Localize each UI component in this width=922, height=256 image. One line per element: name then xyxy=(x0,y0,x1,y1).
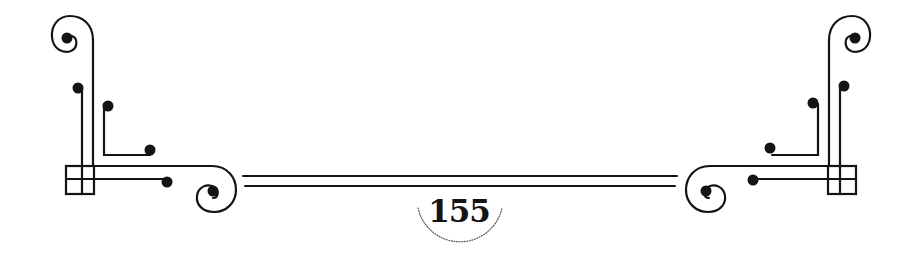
left-l-bracket xyxy=(104,104,150,155)
ornament-dots xyxy=(62,33,861,197)
right-l-bracket xyxy=(772,104,818,155)
left-spiral-dot-icon xyxy=(62,33,73,44)
page-number: 155 xyxy=(409,193,509,229)
right-bracket-top-dot-icon xyxy=(808,98,819,109)
right-vertical-dot-icon xyxy=(839,81,850,92)
right-bracket-end-dot-icon xyxy=(765,143,776,154)
left-corner-ornament xyxy=(52,16,236,212)
left-vertical-dot-icon xyxy=(73,83,84,94)
left-bracket-top-dot-icon xyxy=(103,101,114,112)
left-bracket-end-dot-icon xyxy=(145,145,156,156)
right-bottom-spiral-icon xyxy=(686,166,856,212)
left-bottom-spiral-dot-icon xyxy=(208,186,219,197)
right-bottom-spiral-dot-icon xyxy=(701,186,712,197)
right-lower-dot-icon xyxy=(748,175,759,186)
right-corner-ornament xyxy=(686,16,870,212)
left-lower-dot-icon xyxy=(162,177,173,188)
right-spiral-dot-icon xyxy=(850,33,861,44)
double-rule-divider xyxy=(243,176,677,186)
